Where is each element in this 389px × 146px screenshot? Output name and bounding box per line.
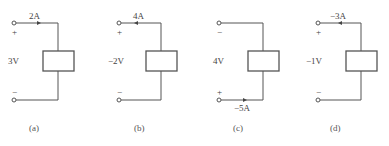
current-label-d: −3A — [330, 12, 346, 21]
current-arrow-icon — [134, 21, 138, 25]
caption-d: (d) — [330, 124, 341, 133]
current-label-c: −5A — [234, 104, 250, 113]
bottom-polarity-b: − — [117, 88, 122, 97]
current-arrow-icon — [37, 21, 41, 25]
caption-c: (c) — [233, 124, 243, 133]
bottom-polarity-c: + — [217, 88, 222, 97]
circuit-panel-a: 2A + 3V − (a) — [0, 0, 100, 146]
voltage-label-a: 3V — [8, 57, 19, 66]
current-label-a: 2A — [29, 12, 40, 21]
circuit-diagram-b — [97, 0, 197, 146]
top-polarity-c: − — [217, 28, 222, 37]
bottom-polarity-d: − — [316, 88, 321, 97]
voltage-label-c: 4V — [213, 57, 224, 66]
top-polarity-b: + — [117, 28, 122, 37]
top-polarity-d: + — [316, 28, 321, 37]
bottom-polarity-a: − — [12, 88, 17, 97]
top-polarity-a: + — [12, 28, 17, 37]
current-arrow-icon — [338, 21, 342, 25]
current-label-b: 4A — [133, 12, 144, 21]
circuit-diagram-a — [0, 0, 100, 146]
circuit-diagram-c — [195, 0, 295, 146]
voltage-label-d: −1V — [306, 57, 322, 66]
caption-b: (b) — [134, 124, 145, 133]
circuit-panel-d: −3A + −1V − (d) — [290, 0, 389, 146]
circuit-panel-b: 4A + −2V − (b) — [97, 0, 197, 146]
circuit-panel-c: − 4V + −5A (c) — [195, 0, 295, 146]
current-arrow-icon — [243, 98, 247, 102]
caption-a: (a) — [29, 124, 39, 133]
voltage-label-b: −2V — [108, 57, 124, 66]
